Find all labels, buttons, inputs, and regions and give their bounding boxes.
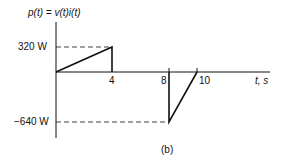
power-plot [0, 0, 288, 160]
x-tick-4: 4 [109, 76, 115, 86]
x-tick-8: 8 [161, 76, 167, 86]
chart-title: p(t) = v(t)i(t) [28, 8, 81, 18]
y-tick-minus640: −640 W [14, 117, 49, 127]
caption: (b) [161, 145, 173, 155]
x-axis-label: t, s [255, 76, 268, 86]
power-waveform [56, 47, 112, 72]
y-tick-320: 320 W [18, 42, 47, 52]
x-tick-10: 10 [199, 76, 210, 86]
power-waveform-2 [169, 72, 197, 122]
